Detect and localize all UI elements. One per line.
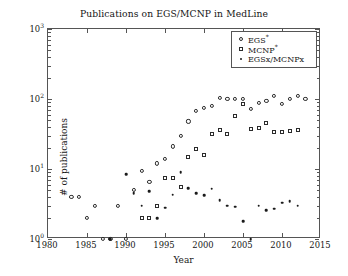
data-point-open-circle [186,119,190,123]
data-point-open-circle [296,94,300,98]
data-point-open-square [210,132,214,136]
x-tick-label: 1985 [75,240,96,250]
y-tick [48,40,51,41]
y-tick [48,45,51,46]
y-tick-right [317,185,320,186]
x-tick [204,233,205,237]
y-tick [48,127,51,128]
data-point-open-square [257,126,261,130]
y-tick-right [317,106,320,107]
data-point-filled-dot [211,188,214,191]
y-tick [48,180,51,181]
x-tick [87,233,88,237]
legend-entry: MCNP* [235,44,313,54]
data-point-open-square [272,130,276,134]
data-point-filled-dot [195,192,198,195]
data-point-open-circle [272,94,276,98]
data-point-filled-dot [218,199,221,202]
legend-label: MCNP* [247,43,278,55]
chart-legend: EGS*MCNP*EGSx/MCNPx [231,31,317,68]
y-tick [48,50,51,51]
marker-glyph [240,58,243,61]
x-axis-tick-labels: 19801985199019952000200520102015 [0,240,348,254]
marker-glyph [239,37,243,41]
data-point-filled-dot [187,187,190,190]
data-point-open-circle [171,144,175,148]
y-tick-right [317,190,320,191]
data-point-filled-dot [289,200,292,203]
data-point-open-square [264,121,268,125]
data-point-open-square [179,185,183,189]
data-point-filled-dot [172,193,175,196]
y-tick [48,99,52,100]
y-tick-right [317,148,320,149]
y-tick [48,239,52,240]
data-point-open-circle [116,204,120,208]
data-point-open-circle [280,102,284,106]
data-point-open-circle [257,101,261,105]
data-point-filled-dot [179,171,182,174]
y-tick [48,106,51,107]
x-tick-label: 1995 [153,240,174,250]
data-point-open-circle [210,104,214,108]
x-tick-top [204,29,205,33]
data-point-open-square [241,102,245,106]
data-point-filled-dot [257,204,260,207]
y-tick-right [317,78,320,79]
x-tick-label: 2010 [270,240,291,250]
x-tick-top [87,29,88,33]
y-tick [48,206,51,207]
legend-marker-filled-dot-icon [235,58,247,61]
data-point-filled-dot [281,201,284,204]
data-point-open-circle [155,161,159,165]
x-tick-top [165,29,166,33]
data-point-open-circle [288,97,292,101]
y-tick-right [317,197,320,198]
x-tick-top [126,29,127,33]
data-point-open-circle [225,97,229,101]
data-point-filled-dot [148,190,151,193]
data-point-filled-dot [203,194,206,197]
data-point-open-circle [69,195,73,199]
y-tick-right [317,172,320,173]
data-point-open-square [296,128,300,132]
data-point-open-circle [194,109,198,113]
data-point-filled-dot [156,217,159,220]
y-tick-right [317,176,320,177]
data-point-filled-dot [265,209,268,212]
legend-marker-open-square-icon [235,47,247,51]
legend-marker-open-circle-icon [235,37,247,41]
data-point-open-square [233,114,237,118]
y-tick [48,120,51,121]
x-tick-label: 1990 [114,240,135,250]
legend-entry: EGSx/MCNPx [235,54,313,64]
data-point-open-circle [147,180,151,184]
y-tick-right [317,115,320,116]
y-tick-right [317,120,320,121]
data-point-filled-dot [164,206,167,209]
y-tick-right [315,99,319,100]
y-tick [48,115,51,116]
data-point-filled-dot [234,205,237,208]
y-tick-right [315,239,319,240]
x-tick [243,233,244,237]
data-point-open-circle [85,216,89,220]
data-point-open-square [218,128,222,132]
x-tick-label: 1980 [36,240,57,250]
data-point-open-circle [249,107,253,111]
y-tick [48,110,51,111]
data-point-open-circle [93,204,97,208]
y-tick-right [317,218,320,219]
x-tick-label: 2005 [231,240,252,250]
y-tick [48,102,51,103]
y-tick [48,36,51,37]
y-tick-right [315,29,319,30]
y-tick [48,32,51,33]
y-tick [48,190,51,191]
data-point-filled-dot [296,204,299,207]
data-point-open-circle [77,195,81,199]
data-point-open-circle [163,157,167,161]
chart-title: Publications on EGS/MCNP in MedLine [0,8,348,19]
data-point-open-square [280,130,284,134]
data-point-open-square [147,216,151,220]
